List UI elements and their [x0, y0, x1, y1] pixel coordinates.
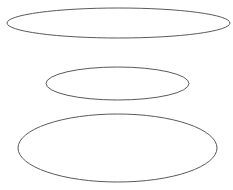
- ellipse-diagram: [0, 0, 233, 190]
- top-ellipse: [7, 8, 230, 38]
- middle-ellipse: [46, 67, 189, 100]
- bottom-ellipse: [18, 114, 217, 182]
